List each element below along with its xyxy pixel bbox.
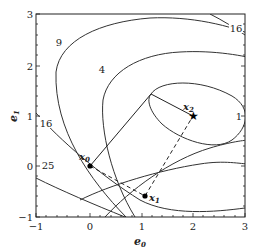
contour-level-9 (56, 18, 258, 217)
solid-path (90, 94, 193, 166)
y-tick-labels: −1 0 1 2 3 (18, 9, 33, 223)
contour-level-25 (36, 178, 125, 217)
contour-label-16-right: 16 (230, 23, 243, 34)
contour-label-25: 25 (42, 160, 55, 171)
point-x0-marker (87, 163, 92, 168)
x-axis-label: e0 (134, 235, 146, 249)
y-tick-label: 0 (27, 161, 33, 172)
x-tick-label: 2 (190, 221, 196, 232)
x-tick-label: 0 (87, 221, 93, 232)
contour-lines (36, 14, 258, 217)
contour-label-9: 9 (56, 37, 62, 48)
point-x1-marker (142, 193, 147, 198)
x-tick-labels: −1 0 1 2 3 (29, 221, 249, 232)
contour-label-4: 4 (99, 64, 105, 75)
contour-label-16-left: 16 (40, 118, 53, 129)
contour-level-4 (103, 52, 258, 217)
y-tick-label: 1 (27, 111, 33, 122)
y-tick-label: −1 (18, 212, 33, 223)
point-label-x1: x1 (148, 192, 160, 205)
contour-level-2 (105, 140, 250, 217)
y-tick-label: 2 (27, 61, 33, 72)
x-tick-label: 3 (242, 221, 248, 232)
y-tick-label: 3 (27, 9, 33, 20)
point-label-x0: x0 (78, 151, 90, 164)
plot-frame (36, 14, 245, 217)
y-axis-label: e1 (7, 110, 21, 122)
x-tick-label: 1 (139, 221, 145, 232)
contour-labels: 9 4 16 25 16 1 (39, 22, 243, 171)
contour-label-1: 1 (236, 111, 242, 122)
contour-chart: ★ x0 x1 x2 9 4 16 25 16 1 (0, 0, 258, 251)
axis-ticks (36, 14, 245, 217)
point-label-x2: x2 (182, 101, 194, 114)
